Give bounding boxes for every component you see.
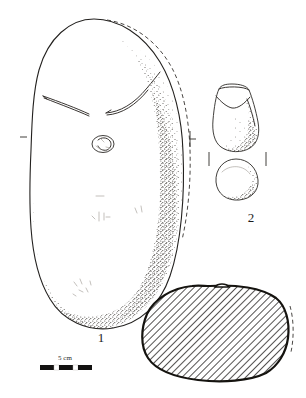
scale-bar-label: 5 cm [58, 354, 72, 362]
figure-3-top-nub [215, 284, 229, 287]
figure-3-dashed-edge [290, 306, 293, 352]
scale-bar-gap-1 [54, 365, 59, 370]
scale-bar-group: 5 cm [40, 354, 92, 370]
figure-3-group [142, 284, 293, 381]
figure-3-section-outline [142, 286, 288, 382]
figure-2-group: 2 [209, 84, 266, 225]
figure-1-label: 1 [98, 330, 105, 345]
scale-bar-segment-1 [40, 365, 54, 370]
scale-bar-segment-2 [59, 365, 73, 370]
figure-2-label: 2 [248, 210, 255, 225]
artifact-plate-svg: 1 [0, 0, 306, 398]
scale-bar-gap-2 [73, 365, 78, 370]
scale-bar-segment-3 [78, 365, 92, 370]
illustration-plate: 1 [0, 0, 306, 398]
figure-1-section-tick-right [190, 131, 196, 147]
